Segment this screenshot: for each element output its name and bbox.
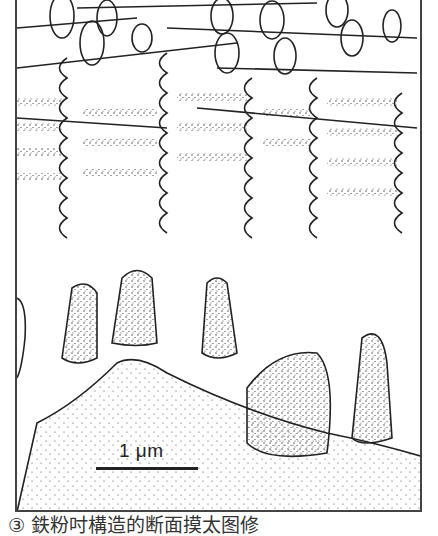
micro-structure-drawing — [17, 0, 422, 512]
figure-frame — [15, 0, 422, 512]
scale-bar — [96, 467, 198, 470]
scale-bar-label: 1 μm — [119, 440, 164, 462]
fiber-cylinders — [17, 0, 417, 128]
figure-caption: ③ 鉄粉吋構造的断面摸太图修 — [8, 514, 259, 536]
